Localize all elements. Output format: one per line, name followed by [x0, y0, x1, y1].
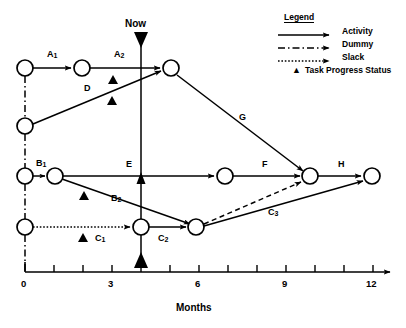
diagram-canvas: A1 A2 D G B1 B2 E F H C1 C2 C3 Now 0 3 6…	[0, 0, 406, 328]
activity-label-f: F	[262, 160, 268, 169]
activity-label-c2: C2	[158, 234, 168, 243]
axis-tick-9: 9	[282, 278, 287, 289]
triangle-icon: ▲	[292, 65, 301, 75]
legend-label-progress: Task Progress Status	[305, 65, 391, 75]
activity-label-d: D	[84, 84, 91, 93]
axis-group	[25, 262, 390, 272]
activity-label-h: H	[338, 160, 345, 169]
activity-label-a1: A1	[47, 50, 57, 59]
axis-tick-12: 12	[366, 278, 377, 289]
legend-item-dummy: Dummy	[276, 38, 402, 50]
activity-label-c3: C3	[268, 208, 278, 217]
activity-label-a2: A2	[114, 50, 124, 59]
axis-tick-0: 0	[21, 278, 26, 289]
axis-tick-3: 3	[108, 278, 113, 289]
now-label: Now	[125, 19, 146, 29]
progress-markers	[78, 75, 118, 242]
solid-arrow-icon	[276, 26, 338, 36]
dashdot-arrow-icon	[276, 39, 338, 49]
legend-label-dummy: Dummy	[342, 39, 373, 49]
axis-tick-6: 6	[195, 278, 200, 289]
activity-label-b1: B1	[36, 159, 46, 168]
legend-label-activity: Activity	[342, 26, 373, 36]
dotted-arrow-icon	[276, 52, 338, 62]
event-nodes	[17, 60, 380, 235]
activity-label-b2: B2	[111, 194, 121, 203]
activity-links	[33, 68, 363, 227]
legend-item-slack: Slack	[276, 51, 402, 63]
activity-label-c1: C1	[95, 234, 105, 243]
legend: Legend Activity Dummy	[276, 6, 402, 76]
legend-title: Legend	[284, 12, 314, 23]
legend-item-activity: Activity	[276, 25, 402, 37]
legend-label-slack: Slack	[342, 52, 364, 62]
activity-label-e: E	[126, 160, 132, 169]
activity-label-g: G	[239, 113, 246, 122]
axis-title-months: Months	[176, 302, 212, 313]
